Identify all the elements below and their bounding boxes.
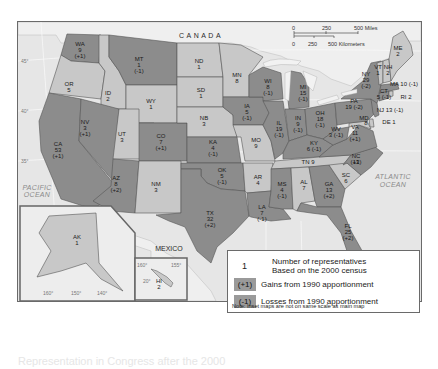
svg-text:35°: 35° (21, 158, 29, 164)
faded-caption-text: Representation in Congress after the 200… (18, 355, 225, 367)
legend-number-example: 1 (228, 261, 261, 271)
svg-text:0: 0 (292, 41, 295, 47)
alaska-inset (20, 206, 135, 301)
label-mi: MI15(-1) (298, 84, 307, 102)
legend-gain-swatch: (+1) (234, 278, 256, 291)
legend-number-description: Number of representatives Based on the 2… (272, 257, 367, 275)
svg-text:155°: 155° (171, 262, 181, 268)
map-legend: 1 Number of representatives Based on the… (227, 250, 420, 313)
state-nm (135, 161, 181, 213)
svg-text:500 Miles: 500 Miles (354, 25, 378, 31)
svg-text:140°: 140° (97, 290, 107, 296)
svg-text:160°: 160° (43, 290, 53, 296)
legend-gain-description: Gains from 1990 apportionment (261, 280, 374, 289)
label-canada: CANADA (179, 32, 223, 39)
label-nc: NC13(+1) (351, 153, 362, 165)
svg-text:250: 250 (322, 25, 331, 31)
svg-text:250: 250 (308, 41, 317, 47)
legend-row-gain: (+1) Gains from 1990 apportionment (228, 278, 374, 291)
label-atlantic-ocean-2: OCEAN (380, 181, 407, 188)
legend-note: Note: Inset maps are not on same scale a… (232, 303, 364, 309)
state-co (139, 123, 187, 161)
label-pacific-ocean-1: PACIFIC (22, 184, 52, 191)
label-tn: TN 9 (301, 159, 315, 165)
svg-text:0: 0 (292, 25, 295, 31)
label-de: DE 1 (382, 119, 396, 125)
svg-text:500 Kilometers: 500 Kilometers (328, 41, 365, 47)
label-ma: MA 10 (-1) (390, 81, 418, 87)
label-pacific-ocean-2: OCEAN (24, 191, 51, 198)
label-nj: NJ 13 (-1) (377, 107, 404, 113)
label-oh: OH18(-1) (315, 110, 324, 128)
svg-text:150°: 150° (71, 290, 81, 296)
state-de (369, 119, 374, 127)
svg-text:40°: 40° (21, 108, 29, 114)
label-ny: NY29(-2) (361, 71, 370, 89)
svg-text:20°: 20° (143, 278, 151, 284)
svg-text:45°: 45° (21, 58, 29, 64)
label-mexico: MEXICO (155, 245, 183, 252)
svg-text:160°: 160° (137, 262, 147, 268)
legend-row-number: 1 Number of representatives Based on the… (228, 257, 367, 275)
label-atlantic-ocean-1: ATLANTIC (374, 173, 411, 180)
label-ri: RI 2 (400, 94, 412, 100)
